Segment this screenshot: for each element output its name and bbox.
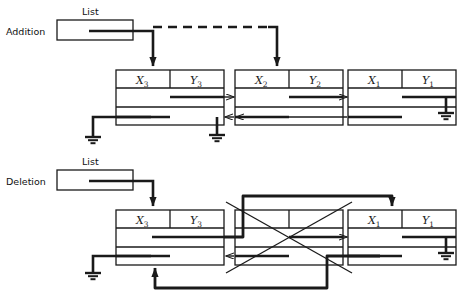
diagram-svg: X3 Y3 X2 Y2 X1: [0, 0, 467, 305]
section-deletion: X3 Y3: [57, 170, 456, 288]
ground-icon: [85, 137, 101, 143]
dashed-link-arrow-to-node2: [268, 27, 277, 66]
diagram-canvas: Addition List Deletion List: [0, 0, 467, 305]
list-head-box-addition: [57, 20, 133, 40]
pointer-list-to-node3: [133, 31, 153, 66]
pointer-list-to-node3-deletion: [133, 181, 153, 206]
node-x1y1-addition[interactable]: X1 Y1: [348, 70, 456, 125]
ground-icon: [209, 135, 225, 141]
ground-icon: [85, 273, 101, 279]
node-deleted[interactable]: [226, 202, 352, 273]
list-head-box-deletion: [57, 170, 133, 190]
section-addition: X3 Y3 X2 Y2 X1: [57, 20, 456, 143]
